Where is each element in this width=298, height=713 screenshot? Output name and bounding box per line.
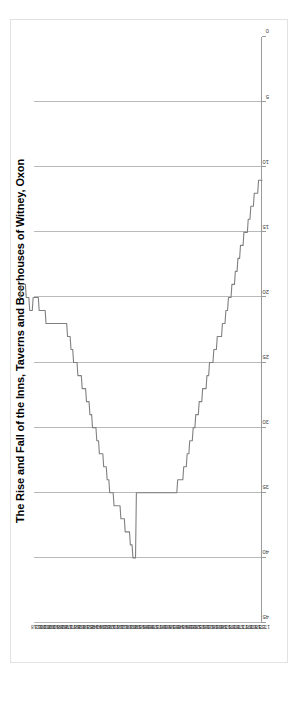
series-line (34, 37, 262, 623)
y-axis-tick-label: 5 (266, 94, 269, 100)
chart-page: The Rise and Fall of the Inns, Taverns a… (0, 0, 298, 713)
y-axis-tick-label: 35 (262, 484, 269, 490)
y-axis-tick-label: 45 (262, 615, 269, 621)
y-axis-tick-label: 15 (262, 224, 269, 230)
y-axis-tick-label: 0 (266, 29, 269, 35)
axis-tick (262, 296, 266, 297)
plot-area (34, 37, 262, 623)
axis-tick (262, 166, 266, 167)
y-axis-tick-label: 10 (262, 159, 269, 165)
axis-tick (262, 101, 266, 102)
y-axis-tick-label: 25 (262, 354, 269, 360)
axis-tick (262, 36, 266, 37)
axis-tick (262, 492, 266, 493)
axis-tick (262, 622, 266, 623)
axis-tick (262, 231, 266, 232)
axis-tick (262, 427, 266, 428)
rotated-chart-container: The Rise and Fall of the Inns, Taverns a… (10, 19, 288, 663)
rotated-chart-inner: The Rise and Fall of the Inns, Taverns a… (10, 19, 288, 663)
y-axis-tick-label: 20 (262, 289, 269, 295)
axis-tick (262, 557, 266, 558)
x-axis-tick-label: 2018 (31, 624, 42, 630)
chart-title: The Rise and Fall of the Inns, Taverns a… (14, 19, 26, 663)
axis-tick (262, 362, 266, 363)
y-axis-tick-label: 40 (262, 549, 269, 555)
y-axis-tick-label: 30 (262, 419, 269, 425)
